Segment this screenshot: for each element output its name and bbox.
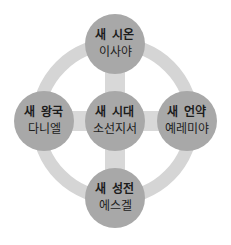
node-center-new-era: 새 시대 소선지서 xyxy=(85,91,145,151)
node-subtitle: 예레미야 xyxy=(165,121,209,138)
node-left-new-kingdom: 새 왕국 다니엘 xyxy=(14,91,74,151)
node-bottom-new-temple: 새 성전 에스겔 xyxy=(85,168,145,228)
node-right-new-covenant: 새 언약 예레미야 xyxy=(157,91,217,151)
node-title: 새 성전 xyxy=(95,181,134,198)
node-title: 새 시온 xyxy=(95,27,134,44)
node-title: 새 언약 xyxy=(167,104,206,121)
cross-ring-diagram: 새 시온 이사야 새 시대 소선지서 새 왕국 다니엘 새 언약 예레미야 새 … xyxy=(0,0,231,245)
node-subtitle: 소선지서 xyxy=(93,121,137,138)
node-title: 새 왕국 xyxy=(24,104,63,121)
node-top-new-zion: 새 시온 이사야 xyxy=(85,14,145,74)
node-subtitle: 다니엘 xyxy=(28,121,61,138)
node-title: 새 시대 xyxy=(95,104,134,121)
node-subtitle: 에스겔 xyxy=(99,198,132,215)
node-subtitle: 이사야 xyxy=(99,44,132,61)
